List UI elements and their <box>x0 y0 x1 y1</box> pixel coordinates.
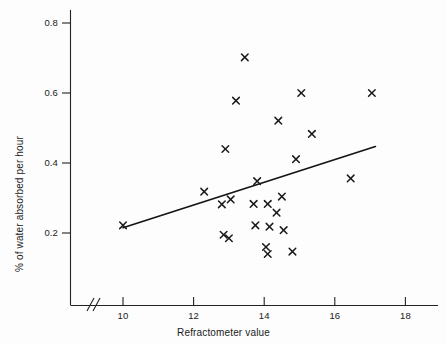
data-point-marker <box>250 201 257 208</box>
data-point-marker <box>275 117 282 124</box>
x-tick-label: 12 <box>174 310 214 321</box>
data-point-marker <box>289 248 296 255</box>
data-point-marker <box>264 201 271 208</box>
data-point-marker <box>280 227 287 234</box>
x-tick-label: 16 <box>315 310 355 321</box>
data-point-marker <box>263 244 270 251</box>
data-point-marker <box>347 175 354 182</box>
x-tick-label: 18 <box>385 310 425 321</box>
data-point-marker <box>293 156 300 163</box>
y-tick-label: 0.8 <box>18 17 58 28</box>
x-axis-ticks <box>123 297 405 306</box>
axes <box>71 10 439 306</box>
data-point-marker <box>266 223 273 230</box>
data-point-marker <box>279 193 286 200</box>
regression-line <box>123 147 375 228</box>
data-point-marker <box>298 90 305 97</box>
x-tick-label: 14 <box>244 310 284 321</box>
scatter-plot-figure: 0.20.40.60.8 1012141618 Refractometer va… <box>0 0 447 344</box>
y-axis-label: % of water absorbed per hour <box>14 136 25 272</box>
y-tick-label: 0.6 <box>18 87 58 98</box>
y-axis-ticks <box>62 23 71 233</box>
x-tick-label: 10 <box>103 310 143 321</box>
data-point-marker <box>227 196 234 203</box>
data-point-marker <box>309 131 316 138</box>
data-point-marker <box>254 178 261 185</box>
data-point-marker <box>273 209 280 216</box>
data-point-marker <box>264 251 271 258</box>
trend-line <box>123 147 375 228</box>
data-point-marker <box>369 90 376 97</box>
data-points <box>120 54 375 257</box>
plot-canvas <box>0 0 447 344</box>
data-point-marker <box>233 97 240 104</box>
data-point-marker <box>219 201 226 208</box>
data-point-marker <box>241 54 248 61</box>
data-point-marker <box>252 222 259 229</box>
data-point-marker <box>222 146 229 153</box>
data-point-marker <box>201 188 208 195</box>
axis-break-mark <box>87 298 100 311</box>
x-axis-label: Refractometer value <box>0 327 447 338</box>
